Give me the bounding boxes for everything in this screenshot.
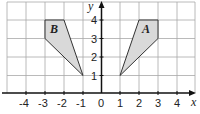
y-axis-label: y xyxy=(87,0,94,13)
y-tick-labels: 4 3 2 1 xyxy=(91,14,97,82)
y-tick-label: 3 xyxy=(91,33,97,45)
x-tick-label: 4 xyxy=(174,97,180,109)
x-tick-label: 0 xyxy=(98,97,104,109)
x-axis xyxy=(2,90,196,96)
shape-b-label: B xyxy=(49,22,58,36)
coordinate-grid-diagram: -4 -3 -2 -1 0 1 2 3 4 4 3 2 1 x y B A xyxy=(0,0,200,114)
y-tick-label: 4 xyxy=(91,14,97,26)
y-tick-label: 1 xyxy=(91,70,97,82)
x-tick-label: 3 xyxy=(155,97,161,109)
x-tick-label: -2 xyxy=(57,97,67,109)
y-tick-label: 2 xyxy=(91,51,97,63)
x-tick-label: 1 xyxy=(117,97,123,109)
x-tick-label: -3 xyxy=(38,97,48,109)
x-tick-label: -4 xyxy=(19,97,29,109)
x-tick-labels: -4 -3 -2 -1 0 1 2 3 4 xyxy=(19,97,180,109)
shape-a-label: A xyxy=(141,22,150,36)
x-tick-label: -1 xyxy=(76,97,86,109)
x-tick-label: 2 xyxy=(136,97,142,109)
x-axis-label: x xyxy=(190,95,197,109)
y-axis xyxy=(99,1,105,93)
